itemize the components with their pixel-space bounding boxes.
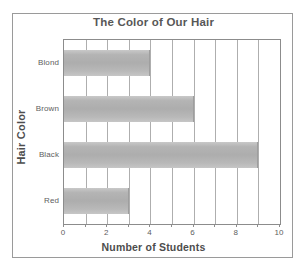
chart-figure: The Color of Our Hair Hair Color BlondBr…	[12, 13, 293, 258]
y-tick-label: Red	[44, 196, 59, 205]
x-axis-title: Number of Students	[13, 241, 294, 253]
x-tick-mark	[279, 224, 280, 227]
x-axis-ticks: 0246810	[63, 224, 281, 242]
x-tick-mark	[214, 224, 215, 227]
y-tick-label: Brown	[36, 104, 59, 113]
bar-row	[64, 96, 280, 123]
bar-red	[64, 188, 129, 215]
x-tick-label: 10	[275, 228, 284, 237]
x-tick-label: 6	[190, 228, 194, 237]
bar-series	[64, 40, 280, 224]
x-tick-mark	[236, 224, 237, 227]
x-tick-mark	[149, 224, 150, 227]
y-axis-title-label: Hair Color	[15, 109, 27, 164]
y-tick-label: Blond	[38, 58, 59, 67]
x-tick-label: 2	[104, 228, 108, 237]
y-tick-label: Black	[39, 150, 59, 159]
x-tick-mark	[257, 224, 258, 227]
x-tick-mark	[63, 224, 64, 227]
x-tick-mark	[106, 224, 107, 227]
x-tick-label: 8	[234, 228, 238, 237]
x-tick-mark	[193, 224, 194, 227]
bar-blond	[64, 50, 150, 77]
x-tick-mark	[128, 224, 129, 227]
y-axis-tick-labels: BlondBrownBlackRed	[27, 39, 61, 223]
x-tick-mark	[85, 224, 86, 227]
bar-brown	[64, 96, 194, 123]
chart-title: The Color of Our Hair	[13, 16, 294, 28]
plot-area	[63, 39, 281, 225]
bar-row	[64, 188, 280, 215]
bar-row	[64, 50, 280, 77]
x-tick-label: 0	[61, 228, 65, 237]
bar-black	[64, 142, 258, 169]
bar-row	[64, 142, 280, 169]
x-tick-mark	[171, 224, 172, 227]
x-tick-label: 4	[147, 228, 151, 237]
